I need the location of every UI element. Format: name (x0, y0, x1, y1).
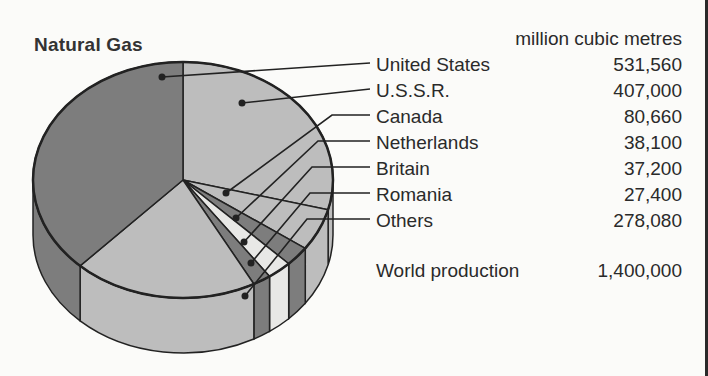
legend-label: United States (376, 52, 490, 78)
legend: United States531,560 U.S.S.R.407,000 Can… (376, 52, 682, 234)
legend-value: 278,080 (613, 208, 682, 234)
legend-value: 80,660 (624, 104, 682, 130)
legend-row-canada: Canada80,660 (376, 104, 682, 130)
legend-value: 38,100 (624, 130, 682, 156)
legend-label: Others (376, 208, 433, 234)
legend-row-ussr: U.S.S.R.407,000 (376, 78, 682, 104)
legend-value: 37,200 (624, 156, 682, 182)
legend-row-britain: Britain37,200 (376, 156, 682, 182)
legend-row-romania: Romania27,400 (376, 182, 682, 208)
world-production-row: World production 1,400,000 (376, 258, 682, 284)
legend-label: Netherlands (376, 130, 478, 156)
legend-row-others: Others278,080 (376, 208, 682, 234)
world-production-value: 1,400,000 (597, 258, 682, 284)
legend-row-united-states: United States531,560 (376, 52, 682, 78)
world-production-label: World production (376, 258, 519, 284)
pie-side-5 (254, 276, 270, 339)
legend-value: 407,000 (613, 78, 682, 104)
legend-label: U.S.S.R. (376, 78, 450, 104)
legend-label: Canada (376, 104, 443, 130)
legend-label: Britain (376, 156, 430, 182)
legend-label: Romania (376, 182, 452, 208)
legend-value: 27,400 (624, 182, 682, 208)
legend-value: 531,560 (613, 52, 682, 78)
legend-row-netherlands: Netherlands38,100 (376, 130, 682, 156)
